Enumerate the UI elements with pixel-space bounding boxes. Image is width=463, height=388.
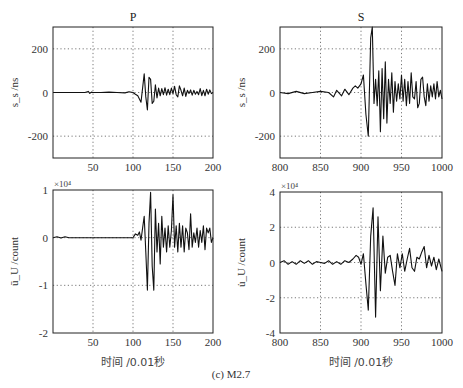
p-acceleration-panel: 50100150200-2-101×10⁴ū_U /count时间 /0.01秒 <box>8 179 222 369</box>
panel-title: P <box>130 10 137 24</box>
y-axis-label: s_s /ns <box>8 78 20 108</box>
x-axis-label: 时间 /0.01秒 <box>101 355 166 369</box>
y-tick-label: 2 <box>270 221 276 233</box>
x-tick-label: 950 <box>393 161 410 173</box>
x-tick-label: 50 <box>88 161 100 173</box>
y-tick-label: 1 <box>43 184 49 196</box>
figure-caption: (c) M2.7 <box>212 368 251 381</box>
x-tick-label: 100 <box>125 161 142 173</box>
x-tick-label: 50 <box>88 336 100 348</box>
y-tick-label: 0 <box>270 257 276 269</box>
x-axis-label: 时间 /0.01秒 <box>329 355 394 369</box>
y-tick-label: -2 <box>39 327 48 339</box>
y-axis-label: s_s /ns <box>235 78 247 108</box>
y-tick-label: 0 <box>43 232 49 244</box>
y-tick-label: -2 <box>266 292 275 304</box>
y-axis-label: ū_U /count <box>8 237 20 286</box>
s-velocity-panel: 8008509009501000-2000200Ss_s /ns <box>235 10 454 173</box>
y-tick-label: -200 <box>255 130 276 142</box>
x-tick-label: 100 <box>125 336 142 348</box>
x-tick-label: 1000 <box>431 336 454 348</box>
x-tick-label: 150 <box>165 336 182 348</box>
x-tick-label: 850 <box>312 336 329 348</box>
x-tick-label: 850 <box>312 161 329 173</box>
y-tick-label: -1 <box>39 279 48 291</box>
x-tick-label: 150 <box>165 161 182 173</box>
y-axis-label: u̇_U /count <box>235 238 247 287</box>
y-tick-label: 200 <box>259 43 276 55</box>
y-tick-label: -4 <box>266 327 276 339</box>
axis-exponent: ×10⁴ <box>281 181 298 191</box>
seismogram-figure: 50100150200-2000200Ps_s /ns8008509009501… <box>0 0 463 388</box>
x-tick-label: 200 <box>205 161 222 173</box>
x-tick-label: 950 <box>393 336 410 348</box>
x-tick-label: 200 <box>205 336 222 348</box>
s-acceleration-panel: 8008509009501000-4-2024×10⁴u̇_U /count时间… <box>235 181 454 369</box>
x-tick-label: 900 <box>353 336 370 348</box>
y-tick-label: 0 <box>270 87 276 99</box>
panel-title: S <box>358 10 365 24</box>
y-tick-label: 4 <box>270 186 276 198</box>
x-tick-label: 800 <box>272 161 289 173</box>
x-tick-label: 1000 <box>431 161 454 173</box>
y-tick-label: 0 <box>43 87 49 99</box>
axis-exponent: ×10⁴ <box>54 179 71 189</box>
y-tick-label: 200 <box>32 43 49 55</box>
y-tick-label: -200 <box>28 130 49 142</box>
p-velocity-panel: 50100150200-2000200Ps_s /ns <box>8 10 222 173</box>
x-tick-label: 900 <box>353 161 370 173</box>
